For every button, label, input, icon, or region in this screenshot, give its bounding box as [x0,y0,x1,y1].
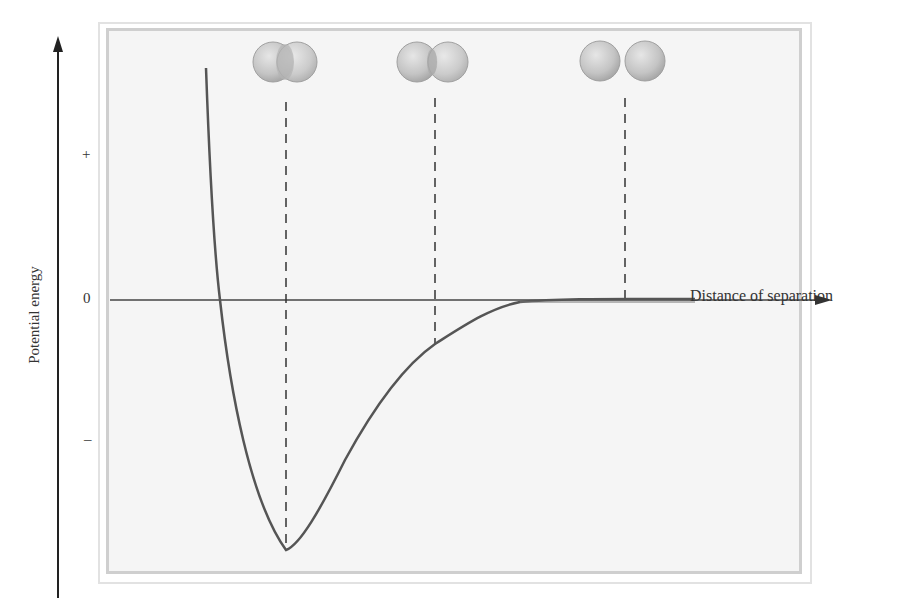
overlapping-atoms-icon [253,42,317,82]
y-axis-label: Potential energy [26,266,43,364]
separate-atoms-icon [580,41,665,81]
y-tick-minus: – [84,431,92,448]
y-tick-zero: 0 [83,290,91,307]
potential-energy-curve [206,68,695,550]
y-tick-plus: + [82,146,90,163]
dashed-guides [286,98,625,550]
y-axis [53,36,63,598]
x-axis-label: Distance of separation [690,287,833,305]
touching-atoms-icon [397,42,468,82]
y-axis-arrowhead-icon [53,36,63,52]
